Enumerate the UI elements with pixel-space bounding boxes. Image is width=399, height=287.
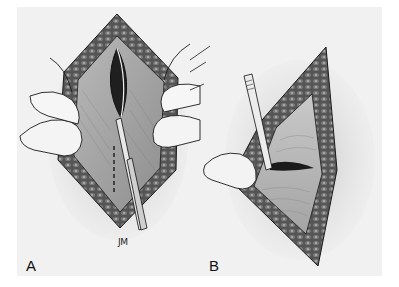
panel-b-drawing xyxy=(190,46,375,266)
panel-a-label: A xyxy=(26,257,36,274)
surgical-illustration xyxy=(0,0,399,287)
panel-a-drawing xyxy=(20,14,200,240)
artist-signature: JM xyxy=(118,237,127,247)
panel-b-label: B xyxy=(209,257,219,274)
